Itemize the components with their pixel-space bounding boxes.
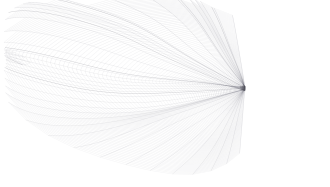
visualization-root: Crumpled Wireframe Mesh Surface A dense …: [0, 0, 330, 187]
wireframe-mesh-canvas: [0, 0, 330, 187]
